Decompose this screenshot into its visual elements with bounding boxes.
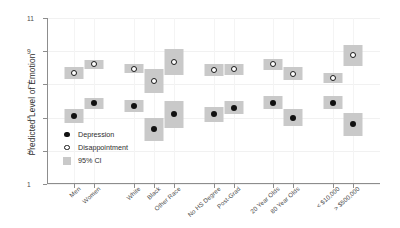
y-tick <box>43 84 47 85</box>
x-axis-tick-labels: MenWomenWhiteBlackOther RaceNo HS Degree… <box>47 185 380 228</box>
legend-label-disappointment: Disappointment <box>74 143 128 152</box>
point-depression <box>91 100 97 106</box>
point-disappointment <box>290 71 296 77</box>
x-tick-label: Black <box>145 185 161 201</box>
point-depression <box>231 105 237 111</box>
point-disappointment <box>231 66 237 72</box>
x-tick-label: Women <box>81 185 102 205</box>
y-axis-line <box>47 18 48 184</box>
chart-figure: Predicted Level of Emotion 1357911 MenWo… <box>0 0 400 228</box>
point-depression <box>211 111 217 117</box>
point-depression <box>270 100 276 106</box>
point-disappointment <box>171 59 177 65</box>
point-disappointment <box>151 78 157 84</box>
y-tick-label: 7 <box>27 81 41 88</box>
point-depression <box>290 115 296 121</box>
y-tick-label: 11 <box>27 15 41 22</box>
point-disappointment <box>330 75 336 81</box>
y-tick <box>43 151 47 152</box>
point-depression <box>330 100 336 106</box>
legend-label-depression: Depression <box>74 130 114 139</box>
x-tick-label: Men <box>68 185 82 198</box>
legend-label-ci: 95% CI <box>74 156 102 165</box>
legend-item-disappointment: Disappointment <box>60 141 128 154</box>
vertical-gridline <box>353 18 354 184</box>
filled-circle-icon <box>60 132 74 138</box>
x-tick-label: No HS Degree <box>186 185 221 218</box>
y-tick-label: 1 <box>27 181 41 188</box>
legend-item-depression: Depression <box>60 128 128 141</box>
point-disappointment <box>71 70 77 76</box>
open-circle-icon <box>60 145 74 151</box>
point-disappointment <box>211 67 217 73</box>
y-tick <box>43 118 47 119</box>
y-tick-label: 5 <box>27 114 41 121</box>
vertical-gridline <box>293 18 294 184</box>
point-disappointment <box>131 66 137 72</box>
point-depression <box>71 113 77 119</box>
point-depression <box>171 111 177 117</box>
legend-item-ci: 95% CI <box>60 154 128 167</box>
point-depression <box>151 126 157 132</box>
vertical-gridline <box>154 18 155 184</box>
point-disappointment <box>270 61 276 67</box>
point-depression <box>131 103 137 109</box>
y-tick <box>43 51 47 52</box>
y-tick-label: 3 <box>27 147 41 154</box>
vertical-gridline <box>214 18 215 184</box>
x-tick-label: White <box>125 185 142 201</box>
point-disappointment <box>91 61 97 67</box>
point-depression <box>350 121 356 127</box>
point-disappointment <box>350 52 356 58</box>
gray-box-icon <box>60 157 74 165</box>
y-tick <box>43 18 47 19</box>
chart-legend: Depression Disappointment 95% CI <box>60 128 128 167</box>
y-tick-label: 9 <box>27 48 41 55</box>
